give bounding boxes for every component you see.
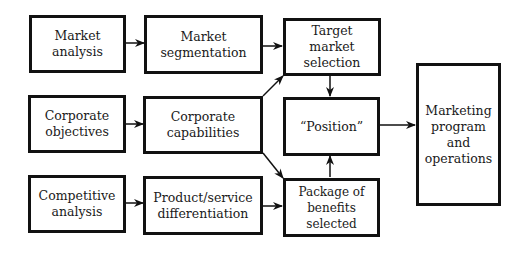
node-label: Corporate objectives [45,108,109,140]
edge-capabilities-to-package [263,153,283,178]
node-package-of-benefits: Package of benefits selected [283,178,380,237]
node-position: “Position” [283,97,380,156]
node-market-segmentation: Market segmentation [144,15,263,74]
node-product-differentiation: Product/service differentiation [143,176,263,235]
node-label: Product/service differentiation [153,190,252,222]
node-label: Target market selection [288,23,376,71]
node-label: Marketing program and operations [421,103,496,167]
node-competitive-analysis: Competitive analysis [28,175,126,233]
node-market-analysis: Market analysis [29,15,126,73]
node-label: Package of benefits selected [288,184,375,232]
node-label: Market segmentation [160,29,246,61]
node-marketing-program: Marketing program and operations [416,63,501,206]
node-label: Competitive analysis [39,188,116,220]
node-label: Market analysis [34,28,121,60]
edge-capabilities-to-target [263,76,283,96]
node-corporate-capabilities: Corporate capabilities [143,96,263,154]
node-target-market-selection: Target market selection [283,18,381,76]
node-label: Corporate capabilities [167,109,240,141]
node-label: “Position” [300,119,363,135]
node-corporate-objectives: Corporate objectives [28,95,126,153]
